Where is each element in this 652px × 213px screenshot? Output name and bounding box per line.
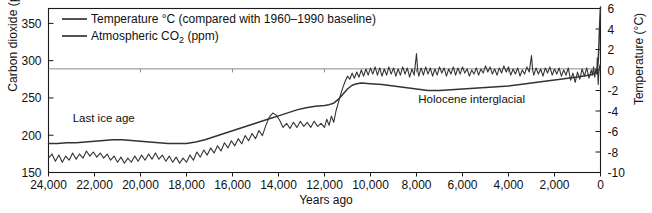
y-axis-right-tick-label: -10 — [608, 166, 626, 180]
y-axis-left-tick-label: 350 — [21, 17, 41, 31]
annotation-last-ice-age: Last ice age — [73, 112, 135, 124]
x-axis-tick-label: 4,000 — [493, 178, 523, 192]
y-axis-right-tick-label: -8 — [608, 146, 619, 160]
x-axis-tick-label: 10,000 — [352, 178, 389, 192]
x-axis-tick-label: 2,000 — [539, 178, 569, 192]
y-axis-right-tick-label: 0 — [608, 64, 615, 78]
y-axis-left-tick-label: 150 — [21, 166, 41, 180]
y-axis-right-tick-label: 4 — [608, 23, 615, 37]
x-axis-tick-label: 14,000 — [260, 178, 297, 192]
chart-plot-area: 24,00022,00020,00018,00016,00014,00012,0… — [0, 0, 652, 213]
x-axis-tick-label: 18,000 — [168, 178, 205, 192]
legend-label-co2: Atmospheric CO2 (ppm) — [91, 29, 219, 45]
x-axis-tick-label: 12,000 — [306, 178, 343, 192]
y-axis-left-tick-label: 250 — [21, 91, 41, 105]
x-axis-tick-label: 16,000 — [214, 178, 251, 192]
x-axis-tick-label: 8,000 — [401, 178, 431, 192]
y-axis-right-tick-label: 6 — [608, 2, 615, 16]
y-axis-right-tick-label: -4 — [608, 105, 619, 119]
legend-label-temperature: Temperature °C (compared with 1960–1990 … — [91, 12, 376, 26]
x-axis-tick-label: 6,000 — [447, 178, 477, 192]
y-axis-right-tick-label: 2 — [608, 43, 615, 57]
x-axis-tick-label: 0 — [597, 178, 604, 192]
x-axis-tick-label: 22,000 — [76, 178, 113, 192]
y-axis-right-tick-label: -2 — [608, 84, 619, 98]
y-axis-right-tick-label: -6 — [608, 125, 619, 139]
y-axis-left-tick-label: 200 — [21, 129, 41, 143]
x-axis-tick-label: 20,000 — [122, 178, 159, 192]
annotation-holocene-interglacial: Holocene interglacial — [418, 93, 525, 105]
chart-figure: Carbon dioxide (ppm) Temperature (°C) Ye… — [0, 0, 652, 213]
y-axis-left-tick-label: 300 — [21, 54, 41, 68]
